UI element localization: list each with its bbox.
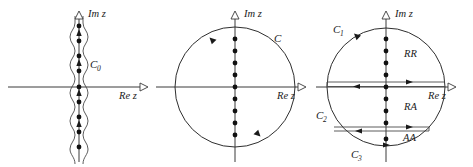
pole-markers-left — [77, 24, 82, 150]
contour-label-c2-subscript: 2 — [323, 115, 327, 124]
contour-c2-horizontal — [334, 127, 429, 131]
contour-label-c0-subscript: 0 — [97, 64, 101, 73]
contour-label-c: C — [274, 32, 282, 44]
region-label-ra: RA — [403, 101, 417, 112]
real-axis-label-left: Re z — [118, 90, 137, 101]
real-axis-label-right: Re z — [427, 90, 446, 101]
region-label-rr: RR — [403, 48, 417, 59]
contour-label-c3-subscript: 3 — [357, 154, 362, 163]
region-label-aa: AA — [402, 132, 416, 143]
pole-markers-middle — [233, 37, 238, 138]
real-axis-label-middle: Re z — [276, 90, 295, 101]
contour-diagram-figure: Im z Re z C 0 — [0, 0, 473, 167]
contour-label-c1-subscript: 1 — [340, 29, 344, 38]
imaginary-axis-label-right: Im z — [394, 8, 413, 19]
panel-middle: Im z Re z C — [150, 0, 320, 167]
imaginary-axis-label-middle: Im z — [243, 8, 262, 19]
panel-left: Im z Re z C 0 — [0, 0, 160, 167]
panel-right: Im z Re z C 1 C 2 C 3 RR RA AA — [310, 0, 473, 167]
imaginary-axis-label-left: Im z — [87, 8, 106, 19]
